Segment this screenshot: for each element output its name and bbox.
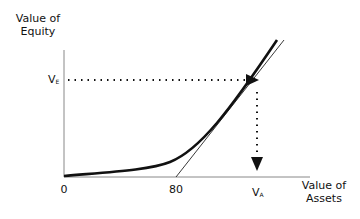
va-label-main: V	[252, 186, 260, 199]
va-label-sub: A	[260, 191, 264, 198]
ve-label-main: V	[48, 73, 56, 86]
tick-label-80: 80	[166, 183, 186, 196]
va-arrowhead-icon	[251, 157, 263, 171]
ve-label-sub: E	[56, 78, 60, 85]
va-label: VA	[252, 186, 264, 201]
ve-label: VE	[48, 73, 59, 88]
x-axis-label-line2: Assets	[296, 192, 352, 205]
y-axis-label: Value of Equity	[10, 12, 66, 38]
x-axis-label-line1: Value of	[296, 179, 352, 192]
tick-label-0: 0	[58, 183, 70, 196]
y-axis-label-line2: Equity	[10, 25, 66, 38]
y-axis-label-line1: Value of	[10, 12, 66, 25]
equity-value-curve	[64, 40, 277, 176]
x-axis-label: Value of Assets	[296, 179, 352, 205]
